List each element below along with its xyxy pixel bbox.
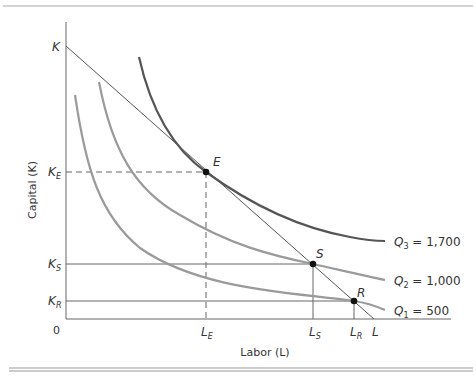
- y-axis-title: Capital (K): [26, 161, 39, 219]
- label-ls: LS: [309, 325, 321, 341]
- label-l-intercept: L: [372, 325, 379, 339]
- label-q3: Q3 = 1,700: [394, 235, 461, 251]
- label-q1: Q1 = 500: [394, 304, 449, 320]
- label-s: S: [316, 247, 324, 261]
- label-ks: KS: [48, 257, 61, 273]
- isoquant-isocost-diagram: E S R K KE KS KR 0 LE LS LR L Q3 = 1,700: [0, 0, 476, 384]
- point-s: [310, 261, 317, 268]
- isocost-line: [66, 46, 374, 319]
- origin-label: 0: [53, 324, 60, 337]
- label-e: E: [213, 155, 221, 169]
- label-ke: KE: [48, 165, 62, 181]
- isoquant-q1: [75, 95, 385, 310]
- label-lr: LR: [350, 325, 362, 341]
- x-axis-title: Labor (L): [240, 346, 289, 359]
- label-le: LE: [201, 325, 214, 341]
- label-q2: Q2 = 1,000: [394, 274, 461, 290]
- label-kr: KR: [48, 294, 61, 310]
- label-k-intercept: K: [52, 40, 61, 54]
- label-r: R: [357, 286, 365, 300]
- point-e: [203, 169, 210, 176]
